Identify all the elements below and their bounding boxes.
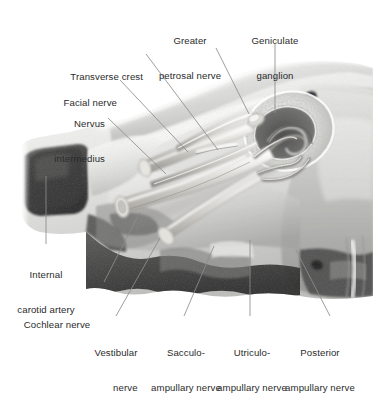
label-nervus-intermedius-line1: Nervus (54, 118, 105, 130)
label-cochlear-nerve-line1: Cochlear nerve (24, 319, 90, 331)
label-nervus-intermedius-line2: intermedius (54, 153, 105, 165)
label-greater-petrosal-nerve-line2: petrosal nerve (159, 70, 221, 82)
label-posterior-ampullary-nerve: Posterior ampullary nerve (285, 324, 355, 397)
label-internal-carotid-artery-line1: Internal (17, 269, 74, 281)
label-geniculate-ganglion: Geniculate ganglion (252, 12, 299, 105)
label-posterior-ampullary-nerve-line1: Posterior (285, 347, 355, 359)
label-utriculo-ampullary-nerve-line2: ampullary nerve (217, 382, 287, 394)
label-vestibular-nerve-line1: Vestibular (94, 347, 137, 359)
label-vestibular-nerve: Vestibular nerve (94, 324, 137, 397)
label-geniculate-ganglion-line1: Geniculate (252, 35, 299, 47)
label-geniculate-ganglion-line2: ganglion (252, 70, 299, 82)
label-cochlear-nerve: Cochlear nerve (24, 296, 90, 354)
label-nervus-intermedius: Nervus intermedius (54, 95, 105, 188)
label-greater-petrosal-nerve: Greater petrosal nerve (159, 12, 221, 105)
label-sacculo-ampullary-nerve-line2: ampullary nerve (151, 382, 221, 394)
label-utriculo-ampullary-nerve-line1: Utriculo- (217, 347, 287, 359)
label-sacculo-ampullary-nerve-line1: Sacculo- (151, 347, 221, 359)
label-greater-petrosal-nerve-line1: Greater (159, 35, 221, 47)
label-sacculo-ampullary-nerve: Sacculo- ampullary nerve (151, 324, 221, 397)
label-vestibular-nerve-line2: nerve (94, 382, 137, 394)
label-posterior-ampullary-nerve-line2: ampullary nerve (285, 382, 355, 394)
label-utriculo-ampullary-nerve: Utriculo- ampullary nerve (217, 324, 287, 397)
